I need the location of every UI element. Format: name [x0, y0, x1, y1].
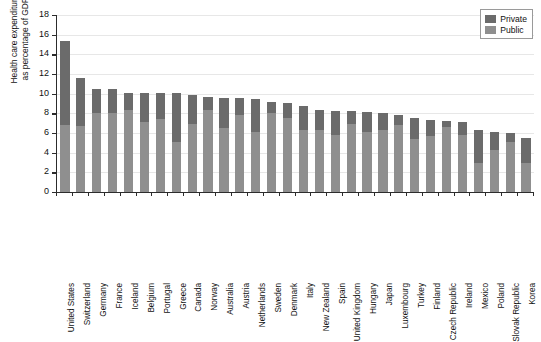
x-axis-tick-mark	[517, 192, 518, 196]
x-axis-label: Sweden	[274, 283, 283, 313]
bar-segment-private	[156, 93, 165, 120]
x-axis-tick-mark	[231, 192, 232, 196]
x-axis-label: Germany	[99, 283, 108, 317]
legend-swatch-public-icon	[485, 26, 496, 34]
bar-segment-private	[490, 132, 499, 150]
bar-segment-public	[426, 136, 435, 192]
bar-segment-private	[140, 93, 149, 123]
x-axis-tick-mark	[183, 192, 184, 196]
x-axis-tick-mark	[120, 192, 121, 196]
bar-series	[57, 15, 534, 192]
x-axis-tick-mark	[326, 192, 327, 196]
bar-segment-private	[172, 93, 181, 142]
bar-segment-public	[140, 122, 149, 192]
bar-group	[490, 15, 499, 192]
y-axis-tick-label: 12	[39, 68, 49, 79]
x-axis-tick-mark	[72, 192, 73, 196]
y-axis-tick-label: 0	[44, 186, 49, 197]
bar-segment-public	[506, 142, 515, 192]
bar-segment-public	[474, 163, 483, 193]
bar-segment-public	[394, 125, 403, 192]
x-axis-tick-mark	[279, 192, 280, 196]
bar-group	[251, 15, 260, 192]
bar-segment-private	[394, 115, 403, 125]
bar-segment-public	[76, 126, 85, 192]
bar-segment-public	[172, 142, 181, 192]
x-axis-tick-mark	[136, 192, 137, 196]
x-axis-tick-mark	[151, 192, 152, 196]
bar-group	[156, 15, 165, 192]
chart-legend: Private Public	[480, 9, 533, 39]
bar-segment-private	[124, 93, 133, 111]
y-axis-tick-label: 16	[39, 29, 49, 40]
x-axis-label: Denmark	[290, 283, 299, 316]
bar-group	[283, 15, 292, 192]
x-axis-tick-mark	[295, 192, 296, 196]
x-axis-label: Norway	[210, 283, 219, 311]
bar-group	[426, 15, 435, 192]
bar-segment-public	[203, 110, 212, 192]
x-axis-label: Czech Republic	[449, 283, 458, 340]
x-axis-label: Slovak Republic	[512, 283, 521, 342]
bar-segment-public	[283, 118, 292, 192]
legend-label-public: Public	[500, 25, 523, 35]
x-axis-label: Portugal	[163, 283, 172, 314]
bar-group	[108, 15, 117, 192]
x-axis-tick-mark	[263, 192, 264, 196]
x-axis-label: Mexico	[481, 283, 490, 309]
bar-group	[203, 15, 212, 192]
x-axis-tick-mark	[533, 192, 534, 196]
bar-segment-private	[267, 102, 276, 114]
bar-group	[60, 15, 69, 192]
bar-segment-private	[251, 99, 260, 132]
bar-segment-private	[283, 103, 292, 119]
bar-segment-public	[410, 139, 419, 192]
x-axis-label: Netherlands	[258, 283, 267, 327]
x-axis-label: Hungary	[369, 283, 378, 314]
x-axis-tick-mark	[406, 192, 407, 196]
x-axis-label: Greece	[179, 283, 188, 310]
bar-segment-private	[188, 95, 197, 125]
bar-group	[315, 15, 324, 192]
x-axis-label: Ireland	[465, 283, 474, 308]
bar-group	[410, 15, 419, 192]
bar-segment-public	[347, 124, 356, 192]
bar-segment-public	[442, 127, 451, 192]
x-axis-label: Luxembourg	[401, 283, 410, 329]
x-axis-label: Australia	[226, 283, 235, 315]
bar-segment-public	[219, 128, 228, 192]
x-axis-label: Turkey	[417, 283, 426, 308]
y-axis-tick-label: 4	[44, 147, 49, 158]
bar-group	[92, 15, 101, 192]
x-axis-tick-mark	[88, 192, 89, 196]
bar-segment-public	[458, 135, 467, 192]
bar-segment-private	[60, 41, 69, 126]
bar-segment-public	[108, 113, 117, 192]
bar-segment-private	[442, 121, 451, 127]
bar-segment-private	[521, 138, 530, 164]
x-axis-label: Switzerland	[83, 283, 92, 325]
bar-segment-private	[378, 113, 387, 130]
bar-segment-public	[331, 135, 340, 192]
bar-segment-private	[315, 110, 324, 130]
bar-group	[347, 15, 356, 192]
bar-segment-private	[219, 98, 228, 128]
bar-segment-public	[299, 130, 308, 192]
x-axis-tick-mark	[342, 192, 343, 196]
x-axis-label: Canada	[194, 283, 203, 312]
bar-group	[331, 15, 340, 192]
bar-group	[506, 15, 515, 192]
x-axis-tick-mark	[104, 192, 105, 196]
bar-segment-public	[521, 163, 530, 192]
bar-segment-private	[76, 78, 85, 126]
bar-group	[299, 15, 308, 192]
x-axis-tick-mark	[56, 192, 57, 196]
y-axis-tick-label: 2	[44, 166, 49, 177]
bar-segment-private	[474, 130, 483, 162]
x-axis-label: Finland	[433, 283, 442, 310]
x-axis-tick-mark	[374, 192, 375, 196]
x-axis-tick-mark	[310, 192, 311, 196]
x-axis-label: France	[115, 283, 124, 308]
bar-group	[172, 15, 181, 192]
